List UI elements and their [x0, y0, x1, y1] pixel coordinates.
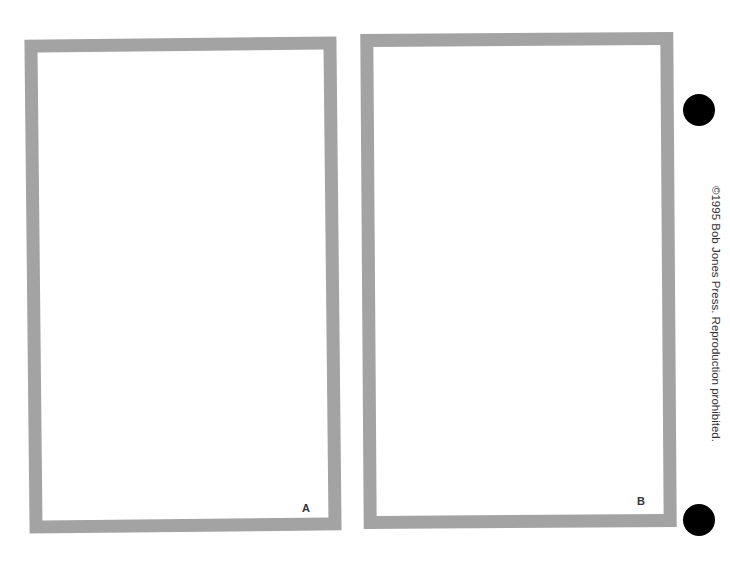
blank-card-frame-a [24, 36, 341, 533]
copyright-notice: ©1995 Bob Jones Press. Reproduction proh… [710, 186, 722, 446]
blank-card-frame-b [360, 32, 676, 529]
binder-hole-bottom [683, 504, 715, 536]
card-label-b: B [637, 495, 645, 507]
card-label-a: A [302, 502, 310, 514]
binder-hole-top [683, 94, 715, 126]
